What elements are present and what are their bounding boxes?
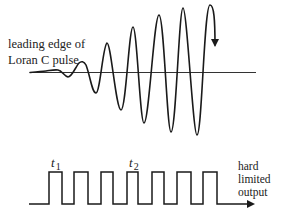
pulse-label-line2: Loran C pulse bbox=[8, 53, 79, 67]
t2-marker: t2 bbox=[129, 155, 139, 172]
loran-diagram: leading edge of Loran C pulse t1 t2 hard… bbox=[0, 0, 284, 219]
t1-marker: t1 bbox=[51, 155, 61, 172]
pulse-waveform bbox=[30, 5, 215, 135]
hard-limited-square-wave bbox=[29, 172, 253, 204]
output-label-line3: output bbox=[238, 186, 268, 199]
pulse-label-line1: leading edge of bbox=[8, 37, 86, 51]
output-label-line2: limited bbox=[238, 173, 271, 185]
output-label-line1: hard bbox=[238, 160, 259, 172]
